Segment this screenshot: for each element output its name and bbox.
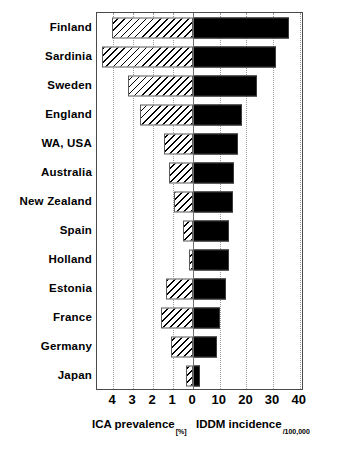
bar-ica-england	[140, 104, 193, 125]
bar-iddm-sardinia	[193, 46, 276, 67]
category-label-australia: Australia	[0, 166, 92, 178]
tick-label-ica-2: 2	[148, 392, 155, 407]
bar-ica-sweden	[128, 75, 193, 96]
gridline-ica-4	[113, 13, 114, 389]
bar-iddm-finland	[193, 17, 289, 38]
bar-iddm-holland	[193, 250, 229, 271]
tick-label-iddm-20: 20	[238, 392, 252, 407]
category-label-column: FinlandSardiniaSwedenEnglandWA, USAAustr…	[0, 12, 92, 390]
zero-axis-line	[193, 13, 194, 389]
category-label-estonia: Estonia	[0, 282, 92, 294]
category-label-japan: Japan	[0, 369, 92, 381]
category-label-france: France	[0, 311, 92, 323]
tick-label-ica-3: 3	[128, 392, 135, 407]
bar-iddm-sweden	[193, 75, 257, 96]
ica-title-text: ICA prevalence	[92, 418, 175, 430]
bar-ica-germany	[171, 337, 193, 358]
bar-ica-spain	[183, 221, 193, 242]
gridline-ica-2	[153, 13, 154, 389]
bar-iddm-england	[193, 104, 242, 125]
category-label-spain: Spain	[0, 224, 92, 236]
iddm-title-unit: /100,000	[283, 428, 310, 435]
bar-ica-sardinia	[102, 46, 193, 67]
gridline-iddm-40	[300, 13, 301, 389]
bar-iddm-estonia	[193, 279, 226, 300]
chart-figure: FinlandSardiniaSwedenEnglandWA, USAAustr…	[0, 0, 340, 450]
category-label-england: England	[0, 108, 92, 120]
bar-ica-wa-usa	[164, 133, 193, 154]
bar-iddm-australia	[193, 162, 234, 183]
category-label-new-zealand: New Zealand	[0, 195, 92, 207]
tick-label-iddm-40: 40	[292, 392, 306, 407]
tick-label-iddm-30: 30	[265, 392, 279, 407]
bar-ica-estonia	[166, 279, 193, 300]
bar-ica-australia	[169, 162, 193, 183]
tick-label-zero: 0	[188, 392, 195, 407]
category-label-finland: Finland	[0, 21, 92, 33]
tick-label-ica-1: 1	[168, 392, 175, 407]
category-label-germany: Germany	[0, 340, 92, 352]
gridline-ica-3	[133, 13, 134, 389]
bar-iddm-spain	[193, 221, 229, 242]
tick-label-iddm-10: 10	[211, 392, 225, 407]
bar-iddm-japan	[193, 366, 200, 387]
bar-ica-japan	[186, 366, 193, 387]
tick-label-ica-4: 4	[108, 392, 115, 407]
x-axis-tick-labels: 4321010203040	[96, 392, 303, 410]
bar-iddm-wa-usa	[193, 133, 238, 154]
category-label-sweden: Sweden	[0, 79, 92, 91]
ica-title-unit: [%]	[176, 428, 187, 435]
gridline-iddm-30	[273, 13, 274, 389]
x-axis-title-right: IDDM incidence/100,000	[196, 418, 309, 432]
bar-ica-france	[161, 308, 193, 329]
x-axis-title-left: ICA prevalence[%]	[92, 418, 186, 432]
bar-iddm-france	[193, 308, 220, 329]
bar-iddm-new-zealand	[193, 192, 233, 213]
bar-ica-finland	[112, 17, 193, 38]
gridline-iddm-20	[246, 13, 247, 389]
category-label-sardinia: Sardinia	[0, 50, 92, 62]
plot-area	[96, 12, 303, 390]
axis-titles: ICA prevalence[%] IDDM incidence/100,000	[0, 418, 340, 446]
category-label-wa-usa: WA, USA	[0, 137, 92, 149]
bar-ica-new-zealand	[174, 192, 193, 213]
category-label-holland: Holland	[0, 253, 92, 265]
bar-iddm-germany	[193, 337, 217, 358]
iddm-title-text: IDDM incidence	[196, 418, 282, 430]
